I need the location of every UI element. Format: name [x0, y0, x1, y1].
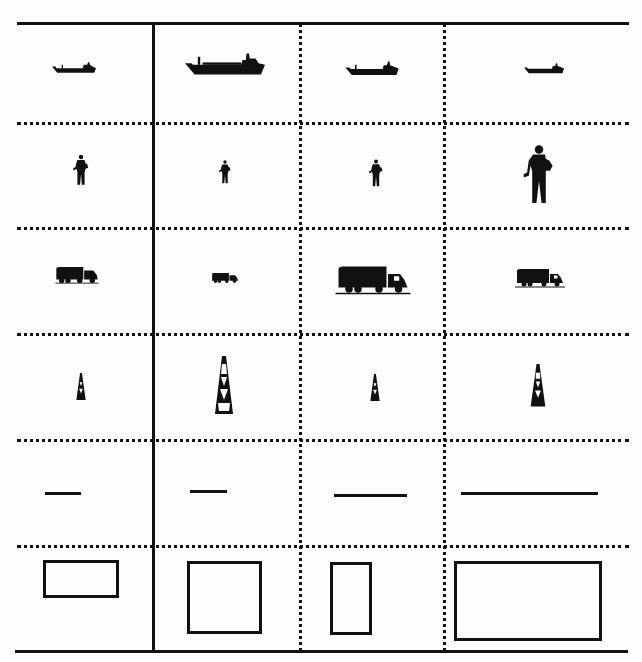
row-divider-5	[17, 545, 629, 548]
tanker-truck-icon	[211, 272, 239, 284]
top-border	[17, 22, 629, 25]
row-divider-1	[17, 122, 629, 125]
ship-icon	[180, 52, 270, 76]
bottom-border	[15, 650, 628, 653]
ship-icon	[52, 60, 96, 74]
column-divider-2	[299, 24, 302, 651]
ship-icon	[522, 62, 566, 74]
oil-derrick-icon	[530, 364, 546, 408]
tanker-truck-icon	[510, 268, 570, 288]
line-segment	[461, 492, 598, 495]
line-segment	[190, 490, 227, 493]
row-divider-3	[17, 333, 629, 336]
oil-derrick-icon	[76, 373, 86, 401]
tanker-truck-icon	[54, 266, 100, 284]
row-divider-2	[17, 227, 629, 230]
row-divider-4	[17, 439, 629, 442]
worker-icon	[368, 158, 384, 188]
rectangle-outline	[454, 561, 602, 641]
line-segment	[334, 494, 407, 497]
line-segment	[45, 492, 81, 495]
rectangle-outline	[43, 560, 119, 598]
oil-derrick-icon	[212, 356, 236, 416]
oil-derrick-icon	[370, 374, 380, 402]
worker-icon	[218, 160, 232, 184]
column-divider-1	[152, 23, 155, 651]
ship-icon	[343, 60, 401, 76]
rectangle-outline	[187, 561, 262, 634]
pictogram-comparison-grid	[0, 0, 642, 662]
tanker-truck-icon	[329, 265, 417, 295]
rectangle-outline	[330, 562, 372, 635]
worker-icon	[522, 145, 556, 205]
worker-icon	[72, 154, 90, 186]
column-divider-3	[443, 24, 446, 651]
